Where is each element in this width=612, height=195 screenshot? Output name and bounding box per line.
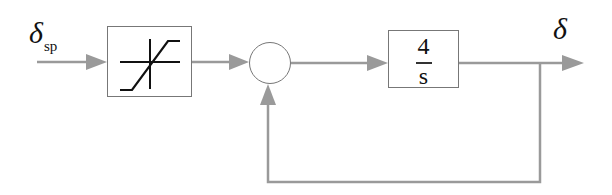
output-label: δ bbox=[553, 14, 567, 44]
arrow-icon bbox=[260, 84, 276, 105]
transfer-function: 4 s bbox=[389, 31, 458, 87]
signal-lines bbox=[0, 0, 612, 195]
arrow-icon bbox=[367, 55, 388, 71]
saturation-icon bbox=[108, 27, 191, 96]
summing-junction bbox=[249, 42, 291, 84]
arrow-icon bbox=[229, 54, 249, 70]
tf-denominator: s bbox=[389, 64, 458, 88]
arrow-icon bbox=[562, 55, 584, 71]
arrow-icon bbox=[86, 54, 107, 70]
saturation-block bbox=[107, 26, 192, 97]
transfer-function-block: 4 s bbox=[388, 30, 459, 88]
input-subscript: sp bbox=[44, 38, 57, 54]
tf-numerator: 4 bbox=[389, 34, 458, 58]
block-diagram: δsp 4 s δ bbox=[0, 0, 612, 195]
input-symbol: δ bbox=[29, 16, 43, 49]
input-label: δsp bbox=[29, 18, 56, 48]
